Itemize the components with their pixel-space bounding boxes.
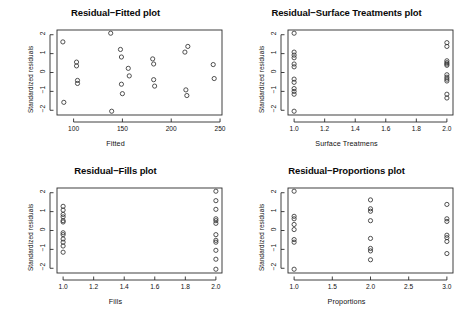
x-tick-label: 1.6 [372, 125, 400, 132]
x-axis-label: Fitted [0, 139, 231, 148]
data-point [119, 55, 123, 59]
data-point [183, 50, 187, 54]
x-tick-label: 1.0 [49, 283, 77, 290]
data-point [152, 62, 156, 66]
data-point [292, 240, 296, 244]
panel-residual-surface-treatments: Residual−Surface Treatments plot1.01.21.… [231, 0, 462, 158]
data-points [61, 31, 217, 113]
data-point [214, 257, 218, 261]
data-point [126, 66, 130, 70]
data-point [368, 258, 372, 262]
x-tick-label: 2.0 [433, 125, 461, 132]
data-point [127, 74, 131, 78]
plot-frame [288, 30, 453, 115]
data-point [118, 47, 122, 51]
x-tick-label: 1.0 [280, 283, 308, 290]
data-point [211, 62, 215, 66]
data-point [120, 92, 124, 96]
y-tick-label: 1 [39, 47, 46, 57]
plot-area [231, 158, 462, 316]
data-point [292, 227, 296, 231]
data-point [214, 207, 218, 211]
x-tick-label: 1.5 [318, 283, 346, 290]
data-point [214, 248, 218, 252]
data-point [368, 236, 372, 240]
y-tick-label: −1 [39, 243, 46, 253]
x-tick-label: 100 [60, 125, 88, 132]
y-tick-label: 0 [39, 66, 46, 76]
x-tick-label: 250 [206, 125, 234, 132]
y-tick-label: 2 [270, 186, 277, 196]
data-point [185, 93, 189, 97]
plot-area [231, 0, 462, 158]
plot-area [0, 0, 231, 158]
data-points [292, 189, 449, 271]
panel-residual-fills: Residual−Fills plot1.01.21.41.61.82.0210… [0, 158, 231, 316]
y-tick-label: 2 [39, 28, 46, 38]
x-tick-label: 1.8 [171, 283, 199, 290]
data-point [61, 250, 65, 254]
y-tick-label: −1 [39, 85, 46, 95]
plot-area [0, 158, 231, 316]
y-tick-label: 1 [270, 205, 277, 215]
panel-residual-proportions: Residual−Proportions plot1.01.52.02.53.0… [231, 158, 462, 316]
data-point [151, 57, 155, 61]
data-point [214, 233, 218, 237]
y-axis-label: Standardized residuals [27, 204, 34, 271]
x-tick-label: 3.0 [433, 283, 461, 290]
plot-frame [57, 188, 222, 273]
x-tick-label: 2.0 [357, 283, 385, 290]
data-point [184, 88, 188, 92]
data-points [292, 31, 449, 113]
data-point [152, 78, 156, 82]
data-point [368, 219, 372, 223]
data-point [368, 198, 372, 202]
data-point [292, 267, 296, 271]
y-tick-label: 2 [39, 186, 46, 196]
data-point [445, 202, 449, 206]
x-tick-label: 1.8 [402, 125, 430, 132]
data-point [186, 44, 190, 48]
y-tick-label: −2 [270, 104, 277, 114]
data-point [292, 189, 296, 193]
y-axis-label: Standardized residuals [258, 204, 265, 271]
x-tick-label: 1.2 [311, 125, 339, 132]
plot-frame [288, 188, 453, 273]
y-tick-label: −2 [39, 262, 46, 272]
data-point [292, 222, 296, 226]
data-point [445, 219, 449, 223]
x-tick-label: 2.0 [202, 283, 230, 290]
x-tick-label: 200 [157, 125, 185, 132]
y-tick-label: 0 [270, 66, 277, 76]
y-tick-label: 0 [270, 224, 277, 234]
data-point [212, 76, 216, 80]
residual-plot-grid: Residual−Fitted plot100150200250210−1−2F… [0, 0, 462, 317]
y-tick-label: 0 [39, 224, 46, 234]
y-tick-label: 1 [270, 47, 277, 57]
y-tick-label: −2 [39, 104, 46, 114]
data-point [119, 82, 123, 86]
data-point [214, 221, 218, 225]
y-tick-label: 2 [270, 28, 277, 38]
x-axis-label: Proportions [231, 297, 462, 306]
x-tick-label: 1.4 [110, 283, 138, 290]
data-point [214, 267, 218, 271]
data-point [292, 56, 296, 60]
y-tick-label: 1 [39, 205, 46, 215]
data-point [214, 189, 218, 193]
data-point [214, 199, 218, 203]
data-points [61, 189, 218, 271]
plot-frame [57, 30, 222, 115]
data-point [292, 31, 296, 35]
x-axis-label: Fills [0, 297, 231, 306]
x-tick-label: 150 [108, 125, 136, 132]
x-axis-label: Surface Treatmens [231, 139, 462, 148]
data-point [75, 81, 79, 85]
data-point [62, 100, 66, 104]
y-tick-label: −1 [270, 85, 277, 95]
y-axis-label: Standardized residuals [27, 46, 34, 113]
data-point [110, 109, 114, 113]
data-point [109, 31, 113, 35]
data-point [61, 40, 65, 44]
data-point [292, 92, 296, 96]
